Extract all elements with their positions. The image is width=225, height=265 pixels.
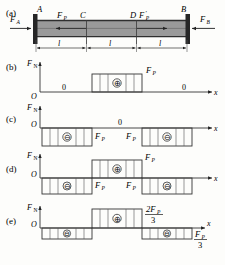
point-d-label: D [129, 10, 137, 20]
panel-c-zero-mid: 0 [118, 118, 122, 127]
panel-e-y-axis-label: F N [26, 203, 38, 213]
svg-text:F: F [26, 203, 32, 212]
support-a [33, 14, 38, 44]
svg-text:F: F [9, 14, 16, 24]
panel-c: (c) F N O x 0 ⊖ F P [6, 103, 218, 146]
figure-container: (a) A B C D F A F B F P [0, 0, 225, 265]
svg-text:P: P [63, 15, 68, 21]
panel-e-bottom-fraction: F P 3 [194, 229, 207, 250]
panel-e-mid-sign: ⊕ [114, 215, 121, 224]
svg-text:P: P [151, 157, 156, 163]
svg-text:N: N [34, 63, 38, 69]
point-c-label: C [80, 10, 86, 20]
panel-c-right-value: F P [125, 131, 137, 142]
svg-text:F: F [26, 59, 32, 68]
panel-b-label: (b) [6, 62, 17, 72]
support-b-label: B [181, 4, 186, 14]
panel-d-x-axis-label: x [213, 174, 218, 183]
panel-c-block-left: ⊖ [42, 128, 92, 146]
svg-text:P: P [101, 185, 106, 191]
panel-b-zero-left: 0 [62, 83, 66, 92]
reaction-a-label: F A [9, 14, 21, 25]
svg-text:N: N [34, 207, 38, 213]
panel-e-x-axis-label: x [206, 219, 211, 228]
svg-text:B: B [207, 19, 211, 25]
panel-b-origin-label: O [31, 92, 37, 101]
axial-force-figure: (a) A B C D F A F B F P [0, 0, 225, 265]
svg-text:F: F [94, 131, 101, 141]
svg-text:P: P [145, 15, 150, 21]
svg-text:3: 3 [151, 215, 155, 225]
svg-text:N: N [34, 155, 38, 161]
panel-d-block-left: ⊖ [42, 178, 92, 194]
svg-text:P: P [101, 136, 106, 142]
panel-c-left-value: F P [94, 131, 106, 142]
panel-e-block-left: ⊖ [42, 228, 92, 239]
panel-c-y-axis-label: F N [26, 103, 38, 113]
panel-e-label: (e) [6, 216, 16, 226]
svg-text:F: F [199, 14, 206, 24]
svg-text:F: F [144, 152, 151, 162]
svg-text:P: P [132, 185, 137, 191]
panel-d-right-sign: ⊖ [164, 182, 171, 191]
svg-text:F: F [125, 131, 132, 141]
panel-a: (a) A B C D F A F B F P [6, 4, 215, 52]
panel-b-block-positive: ⊕ [92, 74, 142, 92]
panel-d-mid-sign: ⊕ [114, 165, 121, 174]
panel-b-y-axis-label: F N [26, 59, 38, 69]
panel-c-right-sign: ⊖ [164, 133, 171, 142]
panel-b-sign: ⊕ [114, 79, 121, 88]
svg-text:F: F [138, 10, 145, 20]
svg-text:F: F [145, 65, 152, 75]
panel-e-left-sign: ⊖ [64, 230, 70, 238]
support-a-label: A [36, 4, 43, 14]
panel-e: (e) F N O x ⊖ ⊕ [6, 203, 211, 250]
svg-text:N: N [34, 107, 38, 113]
panel-b-block-value: F P [145, 65, 157, 76]
panel-c-label: (c) [6, 114, 16, 124]
panel-d-left-value: F P [94, 180, 106, 191]
panel-c-left-sign: ⊖ [64, 133, 71, 142]
panel-d-label: (d) [6, 164, 17, 174]
support-b [186, 14, 191, 44]
svg-text:P: P [132, 136, 137, 142]
reaction-b-label: F B [199, 14, 211, 25]
panel-e-block-mid: ⊕ [92, 209, 142, 228]
panel-c-origin-label: O [31, 120, 37, 129]
panel-c-x-axis-label: x [213, 124, 218, 133]
panel-d-mid-right-value: F P [125, 180, 137, 191]
svg-text:P: P [152, 70, 157, 76]
panel-e-top-fraction: 2F P 3 [145, 204, 163, 225]
span-label-1: l [58, 39, 61, 48]
force-d-label: F ′ P [138, 9, 150, 22]
panel-d-block-right: ⊖ [142, 178, 192, 194]
span-label-2: l [109, 39, 112, 48]
panel-e-origin-label: O [31, 220, 37, 229]
panel-d-y-axis-label: F N [26, 151, 38, 161]
panel-d: (d) F N O x ⊖ F P [6, 151, 218, 194]
panel-d-block-mid: ⊕ [92, 160, 142, 178]
panel-b: (b) F N O x 0 0 ⊕ F P [6, 59, 218, 101]
panel-d-top-value: F P [144, 152, 156, 163]
dimension-row: l l l [36, 39, 187, 52]
force-c-label: F P [56, 10, 68, 21]
panel-d-origin-label: O [31, 170, 37, 179]
svg-text:3: 3 [198, 240, 202, 250]
svg-text:F: F [56, 10, 63, 20]
panel-b-x-axis-label: x [213, 88, 218, 97]
svg-text:A: A [16, 19, 21, 25]
svg-text:F: F [94, 180, 101, 190]
svg-text:F: F [194, 229, 201, 239]
span-label-3: l [159, 39, 162, 48]
panel-e-right-sign: ⊖ [164, 230, 170, 238]
svg-text:F: F [26, 103, 32, 112]
panel-c-block-right: ⊖ [142, 128, 192, 146]
svg-text:F: F [26, 151, 32, 160]
panel-e-block-right: ⊖ [142, 228, 192, 239]
panel-d-left-sign: ⊖ [64, 182, 71, 191]
svg-text:2F: 2F [146, 204, 156, 214]
panel-b-zero-right: 0 [182, 83, 186, 92]
svg-text:F: F [125, 180, 132, 190]
